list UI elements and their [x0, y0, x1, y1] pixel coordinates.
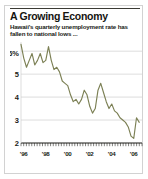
- chart-title: A Growing Economy: [10, 11, 140, 22]
- y-tick-label-3: 3: [15, 116, 19, 125]
- line-chart-svg: 23456%'96'98'00'02'04'06: [10, 39, 143, 161]
- title-rule: [10, 8, 140, 9]
- plot-area: 23456%'96'98'00'02'04'06: [10, 39, 143, 161]
- y-tick-label-5: 5: [15, 70, 19, 79]
- x-tick-label-'06: '06: [130, 150, 139, 157]
- x-tick-label-'02: '02: [86, 150, 95, 157]
- chart-figure: A Growing Economy Hawaii's quarterly une…: [0, 0, 148, 179]
- y-tick-label-4: 4: [15, 93, 20, 102]
- y-tick-label-6%: 6%: [10, 50, 19, 59]
- x-tick-label-'98: '98: [42, 150, 51, 157]
- data-line-series-0: [21, 45, 139, 139]
- chart-subtitle: Hawaii's quarterly unemployment rate has…: [10, 23, 136, 37]
- y-tick-label-2: 2: [15, 139, 19, 148]
- x-tick-label-'96: '96: [20, 150, 29, 157]
- x-tick-label-'00: '00: [64, 150, 73, 157]
- x-tick-label-'04: '04: [108, 150, 117, 157]
